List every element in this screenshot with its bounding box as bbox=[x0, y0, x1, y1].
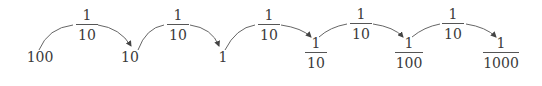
step-numerator: 1 bbox=[174, 8, 183, 24]
step-label-5: 1 10 bbox=[442, 7, 464, 41]
value-100: 100 bbox=[24, 50, 56, 64]
arrow-2 bbox=[138, 25, 164, 50]
step-denominator: 10 bbox=[260, 25, 278, 42]
value-denominator: 100 bbox=[396, 53, 423, 70]
step-denominator: 10 bbox=[78, 25, 96, 42]
step-numerator: 1 bbox=[449, 7, 458, 23]
step-denominator: 10 bbox=[169, 25, 187, 42]
value-1: 1 bbox=[216, 50, 230, 64]
step-numerator: 1 bbox=[83, 8, 92, 24]
value-10: 10 bbox=[119, 50, 141, 64]
value-one-tenth: 1 10 bbox=[305, 36, 327, 70]
arrow-3 bbox=[225, 25, 255, 50]
step-numerator: 1 bbox=[357, 7, 366, 23]
step-numerator: 1 bbox=[265, 8, 274, 24]
step-label-1: 1 10 bbox=[76, 8, 98, 42]
value-one-hundredth: 1 100 bbox=[395, 36, 423, 70]
value-numerator: 1 bbox=[405, 36, 414, 52]
step-label-3: 1 10 bbox=[258, 8, 280, 42]
value-denominator: 1000 bbox=[483, 53, 519, 70]
value-denominator: 10 bbox=[307, 53, 325, 70]
value-numerator: 1 bbox=[312, 36, 321, 52]
value-numerator: 1 bbox=[497, 36, 506, 52]
step-denominator: 10 bbox=[444, 24, 462, 41]
step-label-2: 1 10 bbox=[167, 8, 189, 42]
step-denominator: 10 bbox=[352, 24, 370, 41]
step-label-4: 1 10 bbox=[350, 7, 372, 41]
arrow-1 bbox=[39, 25, 73, 50]
value-one-thousandth: 1 1000 bbox=[483, 36, 519, 70]
